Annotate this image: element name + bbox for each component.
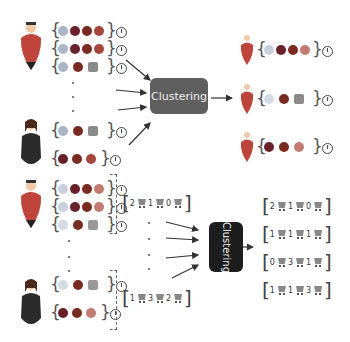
bean-icon — [70, 44, 80, 54]
bottle-icon — [88, 62, 98, 72]
clock-icon — [116, 45, 127, 56]
bean-icon — [70, 26, 80, 36]
clock-icon — [116, 127, 127, 138]
group-bracket — [110, 174, 117, 234]
cluster-avatar — [240, 35, 254, 65]
male-user-avatar — [18, 22, 44, 76]
tomato-icon — [73, 62, 83, 72]
cluster-vector: [210] — [262, 198, 332, 214]
cluster-avatar — [240, 132, 254, 162]
cart-icon — [172, 293, 183, 303]
clock-icon — [110, 155, 121, 166]
male-user-avatar — [18, 180, 44, 234]
clock-icon — [322, 95, 333, 106]
cluster-vector: [031] — [262, 254, 332, 270]
ellipsis-dot — [72, 110, 74, 112]
apple-icon — [94, 44, 104, 54]
cart-icon — [154, 293, 165, 303]
ellipsis-dot — [72, 96, 74, 98]
cluster-vector: [113] — [262, 282, 332, 298]
cart-icon — [136, 198, 147, 208]
cart-icon — [136, 293, 147, 303]
clustering-box-bottom: Clustering — [209, 222, 243, 272]
ellipsis-dot — [72, 82, 74, 84]
cart-icon — [172, 198, 183, 208]
female-user-avatar — [18, 118, 44, 174]
clock-icon — [322, 143, 333, 154]
cart-icon — [154, 198, 165, 208]
candy-icon — [58, 26, 68, 36]
candy-icon — [58, 62, 68, 72]
apple-icon — [86, 154, 96, 164]
apple-icon — [94, 26, 104, 36]
user-vector: [210] — [122, 195, 192, 211]
candy-icon — [58, 126, 68, 136]
bean-icon — [58, 154, 68, 164]
clock-icon — [116, 63, 127, 74]
user-vector: [132] — [122, 290, 192, 306]
tomato-icon — [82, 44, 92, 54]
clustering-box-top: Clustering — [150, 78, 208, 114]
group-bracket — [110, 270, 117, 330]
clock-icon — [116, 221, 127, 232]
cluster-vector: [111] — [262, 226, 332, 242]
candy-icon — [58, 44, 68, 54]
clustering-label: Clustering — [151, 90, 207, 103]
tomato-icon — [72, 154, 82, 164]
tomato-icon — [73, 126, 83, 136]
cluster-avatar — [240, 84, 254, 114]
tomato-icon — [82, 26, 92, 36]
female-user-avatar — [18, 278, 44, 334]
clock-icon — [116, 27, 127, 38]
clustering-label: Clustering — [221, 222, 232, 273]
bottle-icon — [88, 126, 98, 136]
clock-icon — [322, 46, 333, 57]
